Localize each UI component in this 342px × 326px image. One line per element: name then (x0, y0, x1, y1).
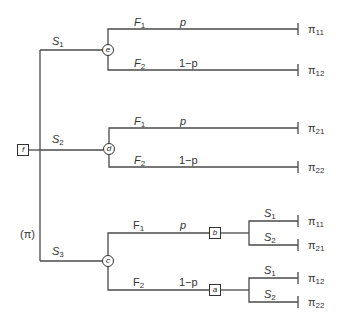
prob-label: p (180, 17, 186, 28)
payoff-label: π11 (308, 24, 324, 37)
chance-node-c: c (102, 255, 114, 267)
branch-label-f2: F2 (134, 58, 145, 71)
payoff-label: π21 (308, 123, 325, 136)
payoff-label: π12 (308, 65, 325, 78)
branch-label-f2: F2 (133, 277, 144, 290)
strategy-label-s1: S1 (52, 36, 64, 49)
prob-label: 1−p (179, 155, 198, 166)
branch-label-f1: F1 (133, 220, 144, 233)
branch-label-f1: F1 (134, 116, 145, 129)
payoff-label: π21 (308, 240, 325, 253)
decision-node-f: f (17, 144, 29, 156)
payoff-label: π22 (308, 297, 325, 310)
decision-node-a: a (209, 284, 221, 296)
chance-node-e: e (102, 44, 114, 56)
strategy-label-s2: S2 (264, 289, 276, 302)
branch-label-f2: F2 (134, 155, 145, 168)
decision-node-b: b (209, 227, 221, 239)
branch-label-f1: F1 (134, 17, 145, 30)
strategy-label-s2: S2 (52, 134, 64, 147)
prob-label: 1−p (179, 277, 198, 288)
payoff-label: π12 (308, 273, 325, 286)
prob-label: p (180, 220, 186, 231)
prob-label: p (180, 116, 186, 127)
payoff-label: π11 (308, 216, 324, 229)
payoff-label: π22 (308, 162, 325, 175)
strategy-label-s1: S1 (264, 265, 276, 278)
strategy-label-s1: S1 (264, 208, 276, 221)
strategy-label-s2: S2 (264, 232, 276, 245)
chance-node-d: d (103, 143, 115, 155)
prob-label: 1−p (179, 58, 198, 69)
root-annotation: (π) (20, 229, 35, 240)
strategy-label-s3: S3 (52, 246, 64, 259)
